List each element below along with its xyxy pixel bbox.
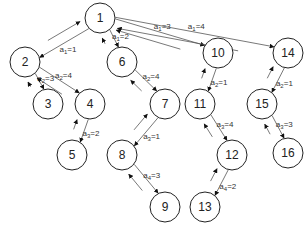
backward-arrow (267, 67, 273, 79)
node-1: 1 (85, 3, 115, 33)
edge-14-15: a2=1 (267, 67, 293, 92)
node-label: 13 (198, 200, 212, 214)
node-label: 9 (162, 200, 169, 214)
node-12: 12 (217, 140, 247, 170)
backward-arrow (28, 82, 31, 87)
node-7: 7 (150, 89, 180, 119)
backward-arrow (134, 114, 147, 130)
node-label: 6 (119, 55, 126, 69)
backward-arrow (131, 80, 142, 91)
node-label: 4 (87, 97, 94, 111)
node-10: 10 (203, 38, 233, 68)
node-label: 7 (162, 97, 169, 111)
edge-label: a4=2 (219, 182, 236, 192)
edge-label: a2=4 (55, 71, 72, 81)
edge-label: a1=1 (60, 45, 77, 55)
backward-arrow (204, 124, 212, 137)
node-11: 11 (185, 89, 215, 119)
node-label: 14 (281, 46, 295, 60)
backward-arrow (129, 174, 143, 190)
node-label: 11 (194, 97, 207, 111)
edge-label: a2=1 (210, 78, 227, 88)
node-label: 8 (119, 148, 126, 162)
backward-arrow (102, 38, 105, 44)
edge-11-12: a3=4 (204, 115, 234, 141)
node-label: 2 (22, 55, 29, 69)
node-16: 16 (273, 138, 303, 168)
edge-label: a2=1 (276, 79, 293, 89)
backward-arrow (265, 124, 270, 134)
backward-arrow (211, 169, 217, 181)
node-8: 8 (107, 140, 137, 170)
node-3: 3 (33, 89, 63, 119)
edge-label: a1=4 (188, 22, 205, 32)
edge-7-8: a3=1 (134, 114, 161, 146)
edge-15-16: a3=3 (265, 116, 294, 138)
node-4: 4 (75, 89, 105, 119)
node-6: 6 (107, 47, 137, 77)
backward-arrow (74, 120, 77, 130)
node-label: 12 (225, 148, 239, 162)
node-label: 1 (97, 11, 104, 25)
node-label: 15 (255, 97, 269, 111)
edge-6-7: a2=4 (131, 70, 160, 91)
node-label: 10 (211, 46, 225, 60)
tree-diagram: a1=1a2=3a2=4a3=2a1=2a2=4a3=1a4=3a1=3a2=1… (0, 0, 307, 232)
node-label: 16 (281, 146, 295, 160)
backward-arrow (202, 69, 205, 79)
edge-1-2: a1=1 (40, 22, 89, 58)
edge-label: a3=2 (82, 129, 99, 139)
edge-label: a2=4 (142, 72, 159, 82)
backward-arrow (48, 22, 80, 41)
edge-label: a3=3 (276, 120, 293, 130)
node-13: 13 (190, 192, 220, 222)
edge-4-5: a3=2 (74, 119, 100, 142)
edge-8-9: a4=3 (129, 164, 161, 193)
edge-label: a4=3 (143, 171, 160, 181)
node-label: 5 (69, 148, 76, 162)
node-2: 2 (10, 47, 40, 77)
node-5: 5 (57, 140, 87, 170)
node-15: 15 (247, 89, 277, 119)
edge-10-11: a2=1 (202, 68, 228, 91)
edge-12-13: a4=2 (211, 169, 237, 196)
edge-label: a3=4 (216, 120, 233, 130)
node-9: 9 (150, 192, 180, 222)
node-14: 14 (273, 38, 303, 68)
edge-1-14: a1=4 (115, 17, 274, 51)
node-label: 3 (45, 97, 52, 111)
edge-label: a3=1 (143, 132, 160, 142)
